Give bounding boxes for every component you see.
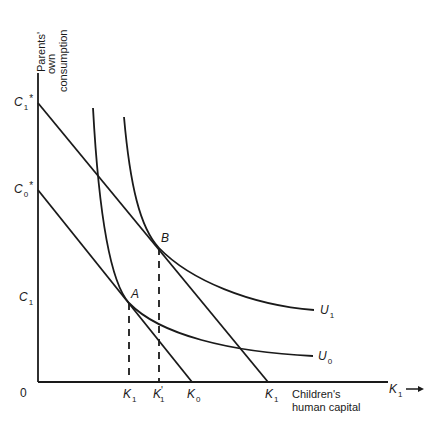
y-tick-c0-star: C0*	[14, 183, 33, 195]
x-axis-end-label: K1	[389, 383, 402, 395]
x-tick-k1: K1	[123, 388, 136, 400]
x-axis-label-line1: Children's	[292, 388, 361, 401]
x-axis-label: Children's human capital	[292, 388, 361, 414]
point-b-label: B	[161, 232, 169, 244]
y-tick-c1-star: C1*	[14, 96, 33, 108]
origin-label: 0	[20, 387, 27, 399]
arrow-head-icon	[418, 386, 424, 392]
indifference-curve-u1	[124, 117, 314, 310]
x-tick-k1-prime: K'1	[153, 388, 164, 400]
budget-line-1	[38, 103, 268, 382]
curve-u0-label: U0	[318, 350, 332, 362]
x-axis-label-line2: human capital	[292, 401, 361, 414]
point-a-label: A	[131, 288, 139, 300]
x-tick-k1-right: K1	[265, 388, 278, 400]
y-axis-label-2: own	[45, 54, 57, 74]
y-axis-label-3: consumption	[57, 30, 69, 92]
y-tick-c1: C1	[19, 291, 33, 303]
budget-line-0	[38, 190, 192, 382]
y-axis-label-line2: own	[45, 54, 57, 74]
indifference-curve-u0	[93, 108, 313, 356]
y-axis-label-line3: consumption	[57, 30, 69, 92]
x-tick-k0: K0	[187, 388, 200, 400]
curve-u1-label: U1	[320, 304, 334, 316]
